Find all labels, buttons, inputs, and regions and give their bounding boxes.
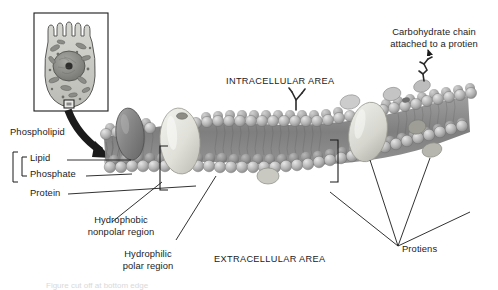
channel-pore-center [177,113,188,119]
label-hydrophilic-line1: Hydrophilic [110,248,186,259]
nucleolus [65,62,72,69]
phospholipid-bracket [13,152,27,182]
cell-membrane-figure: Phospholipid Lipid Phosphate Protein Hyd… [0,0,498,290]
leader-phosphate [86,174,132,176]
leader-hydrophilic [176,176,216,240]
carbohydrate-chain-right [419,57,432,81]
label-extracellular-area: EXTRACELLULAR AREA [214,254,325,265]
label-hydrophobic-line1: Hydrophobic [78,214,164,225]
label-hydrophobic-line2: nonpolar region [70,226,172,237]
label-carbohydrate-line1: Carbohydrate chain [378,26,490,37]
peripheral-protein-lower [257,168,279,184]
carbohydrate-label-arrow [428,50,430,56]
label-intracellular-area: INTRACELLULAR AREA [226,76,334,87]
cut-off-caption: Figure cut off at bottom edge [46,281,466,290]
label-proteins: Protiens [402,243,437,254]
label-phospholipid: Phospholipid [10,126,65,137]
glycoprotein-head-right [412,78,432,94]
membrane-sample-box [64,100,74,108]
label-carbohydrate-line2: attached to a protien [378,38,490,49]
label-lipid: Lipid [30,152,50,163]
inset-cell-diagram [34,13,108,111]
leader-proteins-2 [370,160,398,246]
label-hydrophilic-line2: polar region [108,260,188,271]
leader-protein [68,186,196,194]
epithelial-cell [45,22,95,107]
carbohydrate-chain-center [289,88,305,110]
leader-proteins-1 [330,192,398,246]
label-protein: Protein [30,187,60,198]
surface-protein-a [339,93,361,111]
label-phosphate: Phosphate [30,168,76,179]
